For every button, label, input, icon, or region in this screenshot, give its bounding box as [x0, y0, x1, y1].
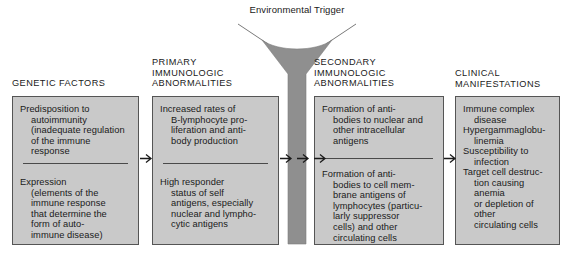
panel-3-block-1: Formation of anti-bodies to nuclear and …	[322, 104, 438, 146]
panel-1-divider	[23, 163, 128, 164]
panel-secondary-immunologic-abnormalities: Formation of anti-bodies to nuclear and …	[314, 96, 444, 245]
panel-primary-immunologic-abnormalities: Increased rates ofB-lymphocyte pro- life…	[152, 96, 279, 245]
panel-3-block-2: Formation of anti-bodies to cell mem- br…	[322, 169, 438, 243]
autoimmunity-pathogenesis-diagram: Environmental Trigger GENETIC FACTORS Pr…	[0, 0, 568, 257]
panel-4-block-3: Susceptibility toinfection	[463, 146, 554, 167]
panel-1-block-2: Expression(elements of the immune respon…	[20, 177, 133, 241]
panel-2-block-1: Increased rates ofB-lymphocyte pro- life…	[160, 104, 273, 146]
arrow-funnel-to-secondary	[313, 152, 329, 165]
panel-2-block-2: High responderstatus of self antigens, e…	[160, 177, 273, 230]
panel-clinical-manifestations: Immune complexdisease Hypergammaglobu-li…	[455, 96, 560, 245]
panel-4-block-4: Target cell destruc-tion causing anemia …	[463, 167, 554, 231]
arrow-through-funnel	[296, 152, 312, 165]
panel-1-block-1: Predisposition toautoimmunity (inadequat…	[20, 104, 133, 157]
column-header-primary-immunologic-abnormalities: PRIMARY IMMUNOLOGIC ABNORMALITIES	[152, 57, 292, 89]
panel-3-divider	[325, 158, 433, 159]
column-header-genetic-factors: GENETIC FACTORS	[12, 78, 152, 89]
panel-4-block-1: Immune complexdisease	[463, 104, 554, 125]
arrow-primary-to-funnel	[279, 152, 295, 165]
column-header-clinical-manifestations: CLINICAL MANIFESTATIONS	[455, 68, 565, 89]
arrow-genetic-to-primary	[139, 152, 155, 165]
panel-genetic-factors: Predisposition toautoimmunity (inadequat…	[12, 96, 139, 245]
panel-2-divider	[163, 163, 268, 164]
panel-4-block-2: Hypergammaglobu-linemia	[463, 125, 554, 146]
arrow-secondary-to-clinical	[443, 152, 459, 165]
column-header-secondary-immunologic-abnormalities: SECONDARY IMMUNOLOGIC ABNORMALITIES	[314, 57, 454, 89]
